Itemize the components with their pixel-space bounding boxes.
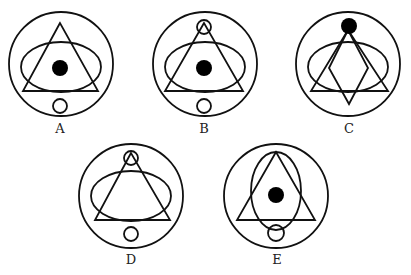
figure-options-canvas: ABCDE (0, 0, 411, 275)
triangle-shape (311, 30, 388, 91)
option-b[interactable]: B (153, 12, 257, 136)
option-label: B (199, 121, 209, 136)
option-label: C (344, 121, 354, 136)
option-d[interactable]: D (79, 144, 183, 267)
small-circle-shape (124, 227, 138, 241)
small-circle-shape (197, 99, 211, 113)
option-a[interactable]: A (9, 12, 113, 136)
ellipse-shape (91, 171, 171, 221)
option-label: A (54, 121, 65, 136)
filled-dot-shape (196, 60, 212, 76)
filled-dot-shape (341, 18, 357, 34)
triangle-shape (23, 23, 98, 91)
option-label: E (272, 252, 282, 267)
diamond-shape (329, 30, 368, 104)
small-circle-shape (53, 99, 67, 113)
option-c[interactable]: C (296, 12, 400, 136)
triangle-shape (237, 152, 315, 220)
ellipse-shape (308, 42, 388, 92)
option-e[interactable]: E (224, 144, 328, 267)
filled-dot-shape (52, 60, 68, 76)
outer-circle-shape (79, 144, 183, 248)
filled-dot-shape (268, 187, 284, 203)
option-label: D (126, 252, 136, 267)
triangle-shape (95, 153, 170, 220)
small-circle-shape (268, 225, 284, 241)
